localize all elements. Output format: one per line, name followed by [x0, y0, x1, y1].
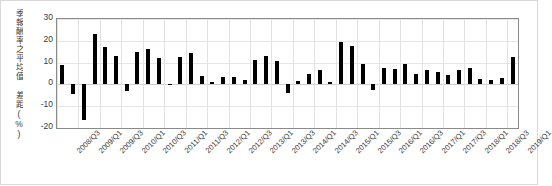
bar [286, 84, 290, 93]
bar [221, 77, 225, 84]
bar [500, 78, 504, 85]
bar [82, 84, 86, 120]
bar [93, 34, 97, 85]
bar [296, 81, 300, 84]
bar [103, 47, 107, 84]
bar [414, 74, 418, 85]
x-axis-tick-labels: 2008/Q32009/Q12009/Q32010/Q12010/Q32011/… [56, 129, 526, 186]
bar [436, 72, 440, 85]
y-axis-title: 季報酬率之平均值 差距(%) [7, 9, 23, 159]
bar [243, 80, 247, 84]
gridline-vertical [422, 19, 423, 128]
x-tick-label: 2008/Q3 [76, 129, 102, 155]
bar [146, 49, 150, 84]
gridline-horizontal [57, 19, 518, 20]
gridline-vertical [229, 19, 230, 128]
y-axis-tick-labels: 3020100-10-20 [25, 1, 53, 186]
bar [382, 68, 386, 84]
gridline-vertical [379, 19, 380, 128]
bar [71, 84, 75, 94]
gridline-horizontal [57, 63, 518, 64]
gridline-vertical [464, 19, 465, 128]
gridline-vertical [336, 19, 337, 128]
y-tick-label: 20 [27, 35, 53, 44]
bar [318, 70, 322, 85]
bar [275, 61, 279, 85]
plot-area [56, 18, 519, 129]
bar [157, 58, 161, 84]
gridline-vertical [357, 19, 358, 128]
gridline-vertical [486, 19, 487, 128]
gridline-vertical [271, 19, 272, 128]
bar [457, 70, 461, 85]
bar [468, 68, 472, 84]
gridline-vertical [100, 19, 101, 128]
bar [307, 74, 311, 84]
bar [511, 57, 515, 84]
bar [135, 52, 139, 84]
bar [168, 84, 172, 85]
bar [232, 77, 236, 85]
gridline-vertical [293, 19, 294, 128]
gridline-vertical [400, 19, 401, 128]
bar [125, 84, 129, 91]
bar [489, 80, 493, 85]
bar [403, 64, 407, 85]
bar [361, 64, 365, 85]
bar [339, 42, 343, 85]
bar [210, 82, 214, 84]
y-tick-label: -10 [27, 100, 53, 109]
bar [350, 46, 354, 84]
bar [393, 69, 397, 84]
gridline-vertical [164, 19, 165, 128]
gridline-horizontal [57, 106, 518, 107]
bar [371, 84, 375, 89]
bar [425, 70, 429, 84]
bar [478, 79, 482, 84]
y-tick-label: 0 [27, 78, 53, 87]
gridline-horizontal [57, 41, 518, 42]
bar [178, 57, 182, 84]
gridline-vertical [57, 19, 58, 128]
bar [114, 56, 118, 84]
y-tick-label: 10 [27, 57, 53, 66]
y-tick-label: -20 [27, 122, 53, 131]
bar [60, 65, 64, 85]
gridline-vertical [143, 19, 144, 128]
bar [328, 82, 332, 85]
gridline-vertical [78, 19, 79, 128]
y-tick-label: 30 [27, 13, 53, 22]
gridline-vertical [507, 19, 508, 128]
bar [264, 56, 268, 84]
bar [253, 60, 257, 84]
gridline-vertical [186, 19, 187, 128]
bar [189, 53, 193, 84]
gridline-vertical [443, 19, 444, 128]
gridline-vertical [207, 19, 208, 128]
gridline-vertical [314, 19, 315, 128]
gridline-vertical [250, 19, 251, 128]
gridline-vertical [121, 19, 122, 128]
bar [200, 76, 204, 85]
bar [446, 75, 450, 84]
